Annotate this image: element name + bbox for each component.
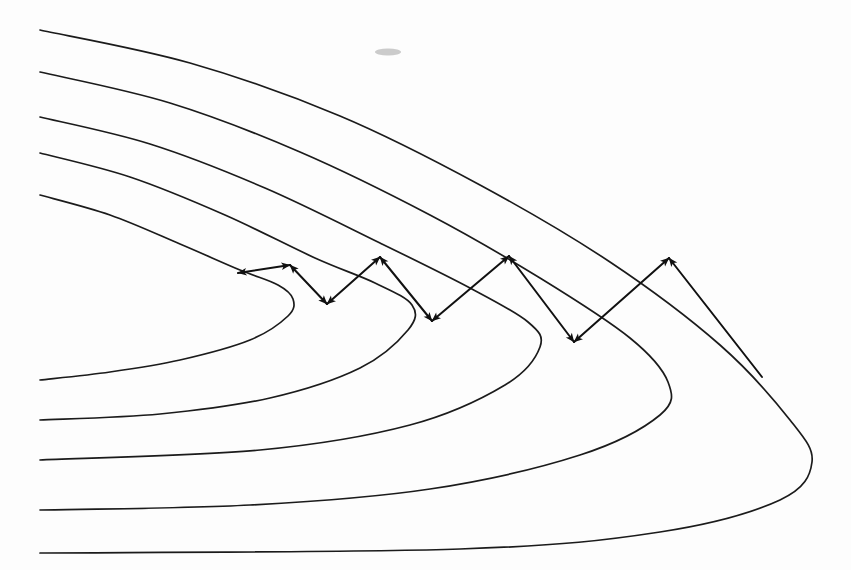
ray-segment-5 — [432, 256, 509, 321]
figure-root: Nested confocal parabolas with reflectin… — [0, 0, 851, 570]
parabola-diagram-canvas — [0, 0, 851, 570]
ray-segment-2 — [290, 265, 327, 304]
parabola-2 — [40, 153, 415, 420]
parabola-4 — [40, 72, 672, 510]
ray-segment-8 — [669, 258, 762, 377]
zigzag-ray-path — [238, 256, 762, 377]
ray-segment-3 — [327, 257, 380, 304]
ray-segment-6 — [509, 256, 574, 342]
parabola-1-innermost — [40, 195, 294, 380]
ink-smudge-artifact — [375, 49, 401, 56]
parabola-3 — [40, 117, 541, 460]
ray-segment-1 — [238, 265, 290, 273]
